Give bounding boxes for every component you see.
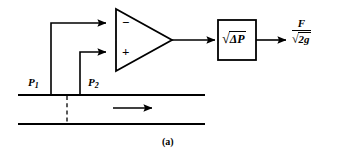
p1-symbol: P	[28, 76, 35, 88]
p2-subscript: 2	[95, 81, 99, 90]
denominator-radicand-2g: 2g	[298, 32, 311, 45]
radicand-delta-p: ΔP	[229, 31, 246, 46]
amplifier-minus-input-label: −	[122, 16, 129, 29]
p2-symbol: P	[88, 76, 95, 88]
output-denominator: √2g	[292, 31, 311, 47]
pressure-tap-p1-label: P1	[28, 77, 39, 90]
figure-container: − + P1 P2 √ΔP F √2g (a)	[0, 0, 340, 156]
figure-caption: (a)	[162, 136, 174, 147]
square-root-delta-p-expression: √ΔP	[222, 32, 246, 46]
amplifier-plus-input-label: +	[122, 45, 129, 58]
output-expression: F √2g	[292, 17, 311, 47]
diagram-canvas	[0, 0, 340, 156]
pressure-tap-p2-label: P2	[88, 77, 99, 90]
output-numerator-f: F	[292, 17, 311, 30]
p1-subscript: 1	[35, 81, 39, 90]
